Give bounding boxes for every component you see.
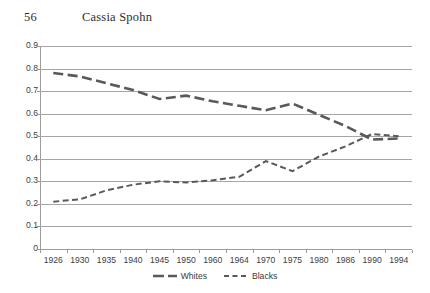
running-header: 56 Cassia Spohn bbox=[0, 10, 430, 30]
x-axis-tick-mark bbox=[93, 250, 94, 253]
series-line-blacks bbox=[53, 134, 398, 202]
legend-item-whites[interactable]: Whites bbox=[153, 271, 207, 281]
y-axis-tick-label: 0.4 bbox=[4, 154, 38, 163]
legend-swatch-icon bbox=[224, 271, 248, 281]
x-axis-tick-mark bbox=[279, 250, 280, 253]
y-axis-tick-label: 0.3 bbox=[4, 176, 38, 185]
x-axis-tick-mark bbox=[173, 250, 174, 253]
page-number: 56 bbox=[24, 10, 37, 25]
x-axis-tick-mark bbox=[120, 250, 121, 253]
chart-series-lines bbox=[40, 46, 412, 249]
y-axis-tick-label: 0.5 bbox=[4, 131, 38, 140]
x-axis-tick-mark bbox=[306, 250, 307, 253]
chart-plot-area: 00.10.20.30.40.50.60.70.80.9 19261930193… bbox=[0, 40, 430, 290]
figure-line-chart: 00.10.20.30.40.50.60.70.80.9 19261930193… bbox=[0, 40, 430, 290]
y-axis-tick-label: 0 bbox=[4, 244, 38, 253]
x-axis-tick-mark bbox=[226, 250, 227, 253]
running-title: Cassia Spohn bbox=[82, 10, 152, 25]
x-axis-tick-mark bbox=[40, 250, 41, 253]
x-axis-tick-label: 1994 bbox=[383, 255, 415, 265]
legend-swatch-icon bbox=[153, 271, 177, 281]
x-axis-tick-mark bbox=[146, 250, 147, 253]
y-axis-tick-label: 0.2 bbox=[4, 199, 38, 208]
chart-legend: WhitesBlacks bbox=[0, 268, 430, 284]
x-axis-line bbox=[40, 249, 412, 250]
x-axis-tick-mark bbox=[359, 250, 360, 253]
legend-label: Blacks bbox=[252, 271, 277, 281]
x-axis-tick-mark bbox=[253, 250, 254, 253]
document-page: 56 Cassia Spohn 00.10.20.30.40.50.60.70.… bbox=[0, 0, 430, 293]
legend-item-blacks[interactable]: Blacks bbox=[224, 271, 277, 281]
series-line-whites bbox=[53, 73, 398, 140]
x-axis-tick-mark bbox=[385, 250, 386, 253]
y-axis-tick-label: 0.8 bbox=[4, 64, 38, 73]
y-axis-tick-label: 0.6 bbox=[4, 109, 38, 118]
x-axis-tick-mark bbox=[412, 250, 413, 253]
y-axis: 00.10.20.30.40.50.60.70.80.9 bbox=[0, 40, 38, 243]
x-axis-tick-mark bbox=[332, 250, 333, 253]
x-axis-tick-mark bbox=[67, 250, 68, 253]
y-axis-tick-label: 0.7 bbox=[4, 86, 38, 95]
y-axis-tick-label: 0.9 bbox=[4, 41, 38, 50]
legend-label: Whites bbox=[181, 271, 207, 281]
y-axis-tick-label: 0.1 bbox=[4, 221, 38, 230]
x-axis-tick-mark bbox=[199, 250, 200, 253]
